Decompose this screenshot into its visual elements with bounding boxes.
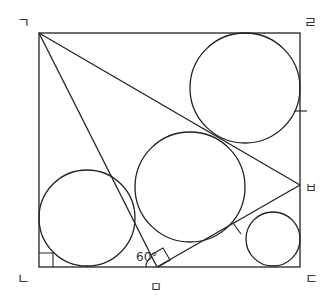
label-bottom-left: ㄴ bbox=[17, 270, 30, 286]
label-bottom-right: ㄷ bbox=[305, 270, 318, 286]
segment-top-left-to-right-point bbox=[39, 33, 300, 185]
tick-mark-segment bbox=[233, 223, 241, 234]
middle-circle bbox=[135, 132, 245, 242]
angle-label: 60° bbox=[136, 250, 157, 264]
small-circle bbox=[246, 212, 300, 266]
label-right-side-point: ㅂ bbox=[305, 180, 317, 195]
label-bottom-side-point: ㅁ bbox=[150, 279, 162, 294]
right-angle-mark-corner bbox=[39, 253, 53, 267]
geometry-diagram: ㄱ ㄹ ㄴ ㄷ ㅂ ㅁ 60° bbox=[0, 0, 330, 302]
square bbox=[39, 33, 300, 267]
label-top-left: ㄱ bbox=[17, 14, 30, 30]
left-circle bbox=[39, 170, 135, 266]
label-top-right: ㄹ bbox=[304, 14, 317, 30]
top-right-circle bbox=[190, 33, 300, 143]
